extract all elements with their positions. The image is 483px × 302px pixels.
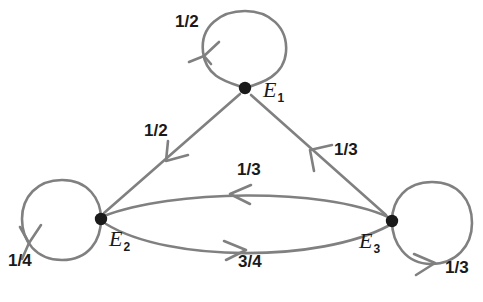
- weight-label-e2-to-e3: 3/4: [238, 253, 262, 270]
- weight-label-e3-to-e3: 1/3: [445, 259, 469, 276]
- node-e1: [239, 82, 251, 94]
- edge-e2-to-e3: [106, 224, 388, 253]
- edge-e3-to-e2: [104, 195, 388, 217]
- state-label-e3-letter: E: [359, 228, 372, 253]
- weight-label-e2-to-e2: 1/4: [8, 252, 32, 269]
- state-label-e2: E2: [109, 228, 130, 253]
- edge-e3-to-e3: [392, 182, 472, 264]
- state-label-e1-subscript: 1: [277, 91, 284, 105]
- state-label-e2-subscript: 2: [123, 240, 130, 254]
- state-label-e1-letter: E: [263, 77, 276, 102]
- state-label-e2-letter: E: [109, 226, 122, 251]
- state-label-e3: E3: [359, 230, 380, 255]
- edge-e2-to-e2: [22, 180, 101, 260]
- markov-chain-diagram: E1 E2 E3 1/2 1/2 1/4 3/4 1/3 1/3 1/3: [0, 0, 483, 302]
- node-e3: [386, 215, 398, 227]
- weight-label-e1-to-e1: 1/2: [175, 13, 199, 30]
- arrowhead-e1-to-e1-tail: [189, 56, 204, 62]
- weight-label-e1-to-e2: 1/2: [144, 122, 168, 139]
- weight-label-e3-to-e2: 1/3: [237, 161, 261, 178]
- weight-label-e3-to-e1: 1/3: [334, 141, 358, 158]
- node-e2: [95, 213, 107, 225]
- state-label-e1: E1: [263, 79, 284, 104]
- state-label-e3-subscript: 3: [373, 242, 380, 256]
